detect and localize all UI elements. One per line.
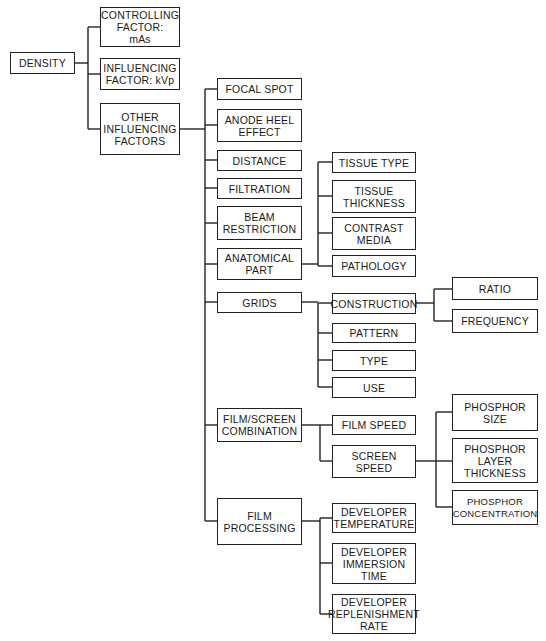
node-label: DEVELOPER REPLENISHMENT RATE [328,596,420,632]
node-contrast-media: CONTRAST MEDIA [332,217,416,250]
node-label: OTHER INFLUENCING FACTORS [103,111,176,147]
node-pathology: PATHOLOGY [332,255,416,277]
node-use: USE [332,377,416,398]
node-phosphor-layer-thickness: PHOSPHOR LAYER THICKNESS [452,438,538,483]
node-influencing-factor: INFLUENCING FACTOR: kVp [100,58,180,90]
node-label: PATTERN [350,327,399,339]
node-construction: CONSTRUCTION [332,293,416,314]
node-film-processing: FILM PROCESSING [217,498,302,545]
node-label: INFLUENCING FACTOR: kVp [103,62,176,86]
node-label: BEAM RESTRICTION [223,211,296,235]
node-label: FILM/SCREEN COMBINATION [222,413,298,437]
node-label: PHOSPHOR SIZE [464,401,526,425]
node-label: GRIDS [242,297,276,309]
node-label: DISTANCE [233,155,287,167]
node-label: USE [363,382,385,394]
node-density: DENSITY [10,52,75,74]
node-phosphor-size: PHOSPHOR SIZE [452,394,538,431]
node-tissue-thickness: TISSUE THICKNESS [332,180,416,213]
node-pattern: PATTERN [332,323,416,343]
node-label: CONTRAST MEDIA [344,222,403,246]
density-factors-tree-diagram: DENSITY CONTROLLING FACTOR: mAs INFLUENC… [0,0,546,641]
node-label: FILM PROCESSING [223,510,295,534]
node-label: FILM SPEED [342,419,406,431]
node-controlling-factor: CONTROLLING FACTOR: mAs [100,7,180,47]
node-anode-heel-effect: ANODE HEEL EFFECT [217,109,302,142]
node-phosphor-concentration: PHOSPHOR CONCENTRATION [452,490,538,525]
node-film-speed: FILM SPEED [332,415,416,435]
node-tissue-type: TISSUE TYPE [332,152,416,173]
node-frequency: FREQUENCY [452,309,538,333]
node-label: CONSTRUCTION [331,298,418,310]
node-ratio: RATIO [452,277,538,300]
node-label: PHOSPHOR LAYER THICKNESS [464,443,526,479]
node-label: FREQUENCY [461,315,529,327]
node-label: FILTRATION [229,183,291,195]
node-label: CONTROLLING FACTOR: mAs [101,9,179,45]
node-anatomical-part: ANATOMICAL PART [217,248,302,280]
node-label: DENSITY [19,57,66,69]
node-label: PATHOLOGY [341,260,407,272]
node-developer-temperature: DEVELOPER TEMPERATURE [332,503,416,533]
node-filtration: FILTRATION [217,178,302,199]
node-label: DEVELOPER IMMERSION TIME [341,546,407,582]
node-label: RATIO [479,283,511,295]
node-label: TYPE [360,355,388,367]
node-label: ANODE HEEL EFFECT [225,114,295,138]
node-label: DEVELOPER TEMPERATURE [334,506,415,530]
node-type: TYPE [332,350,416,371]
node-label: TISSUE TYPE [339,157,409,169]
node-other-influencing-factors: OTHER INFLUENCING FACTORS [100,103,180,155]
node-focal-spot: FOCAL SPOT [217,78,302,100]
node-label: TISSUE THICKNESS [343,185,405,209]
node-grids: GRIDS [217,292,302,313]
node-label: ANATOMICAL PART [225,252,294,276]
node-screen-speed: SCREEN SPEED [332,445,416,478]
node-developer-immersion-time: DEVELOPER IMMERSION TIME [332,543,416,584]
node-distance: DISTANCE [217,150,302,171]
node-beam-restriction: BEAM RESTRICTION [217,206,302,240]
node-label: PHOSPHOR CONCENTRATION [453,496,538,520]
node-label: SCREEN SPEED [352,450,397,474]
node-label: FOCAL SPOT [225,83,293,95]
node-developer-replenishment-rate: DEVELOPER REPLENISHMENT RATE [332,594,416,634]
node-film-screen-combination: FILM/SCREEN COMBINATION [217,408,302,442]
